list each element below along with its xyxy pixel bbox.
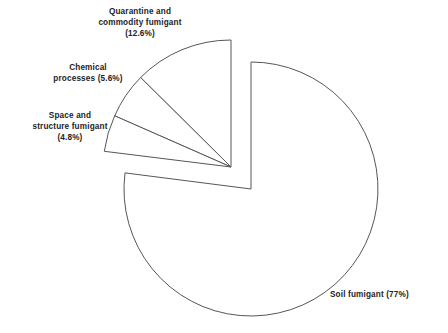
pie-label-quarantine-and-commodity-fumigant: Quarantine and commodity fumigant (12.6%…: [60, 6, 220, 40]
pie-chart-figure: Quarantine and commodity fumigant (12.6%…: [0, 0, 448, 333]
pie-chart-graphic: [0, 0, 448, 333]
pie-label-soil-fumigant: Soil fumigant (77%): [330, 289, 448, 300]
pie-label-space-and-structure-fumigant: Space and structure fumigant (4.8%): [0, 110, 140, 144]
pie-label-chemical-processes: Chemical processes (5.6%): [18, 62, 158, 84]
